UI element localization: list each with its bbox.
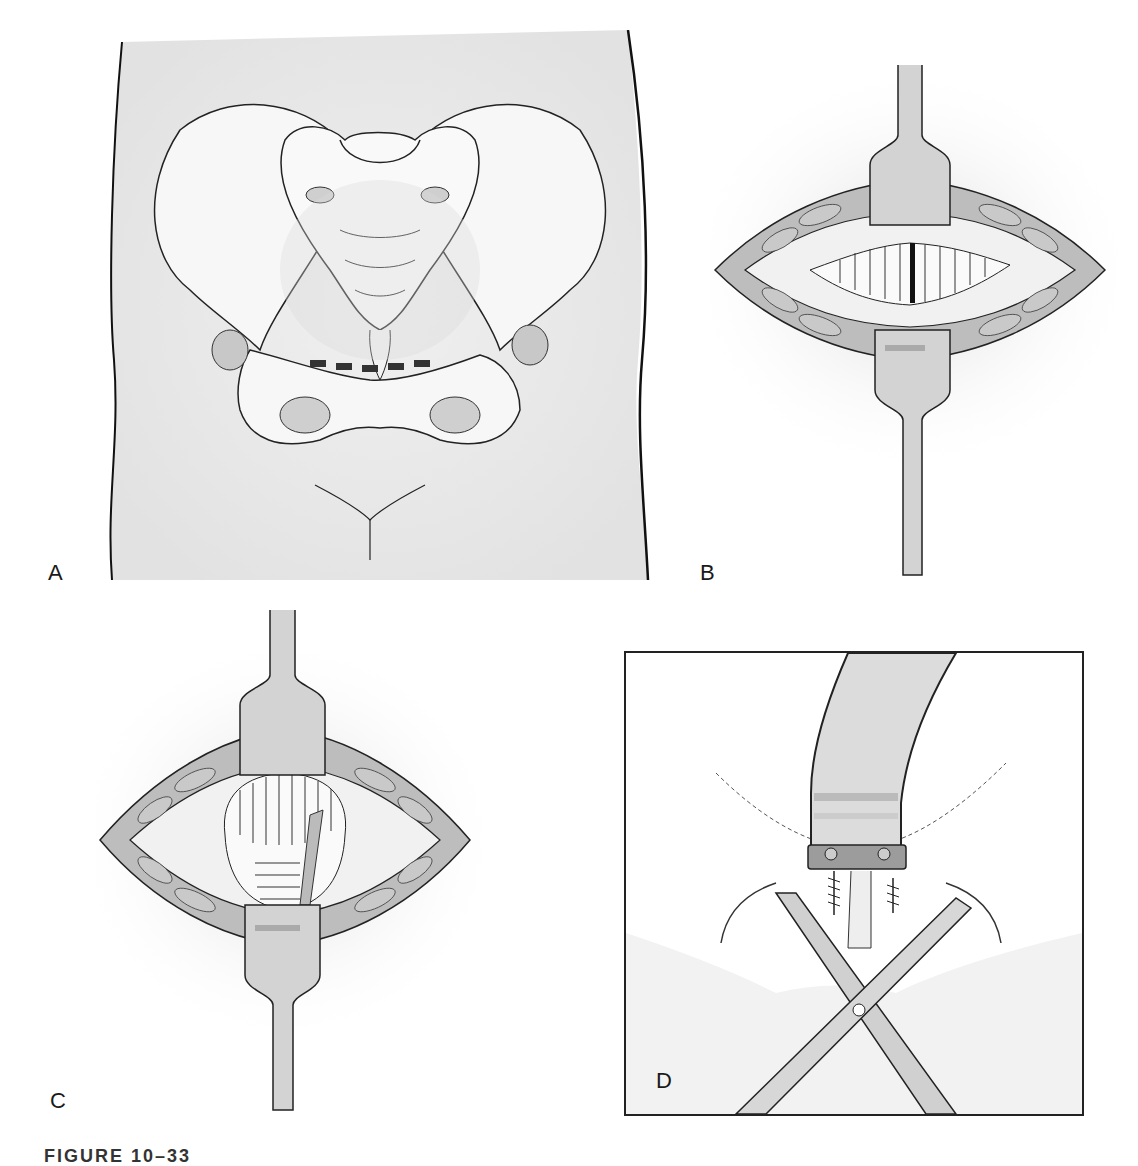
panel-b-incision bbox=[710, 15, 1130, 590]
panel-label-a: A bbox=[48, 560, 63, 586]
panel-label-c: C bbox=[50, 1088, 66, 1114]
figure-caption: FIGURE 10–33 bbox=[44, 1146, 191, 1166]
incision-retractor-illustration bbox=[710, 15, 1130, 590]
plate-fixation-illustration bbox=[626, 653, 1082, 1114]
exposure-retractor-illustration bbox=[95, 605, 495, 1115]
panel-a-pelvis bbox=[100, 30, 660, 590]
panel-c-exposure bbox=[95, 605, 495, 1115]
pelvis-illustration bbox=[100, 30, 660, 590]
panel-label-b: B bbox=[700, 560, 715, 586]
panel-label-d: D bbox=[656, 1068, 672, 1094]
panel-d-plate-fixation: D bbox=[624, 651, 1084, 1116]
